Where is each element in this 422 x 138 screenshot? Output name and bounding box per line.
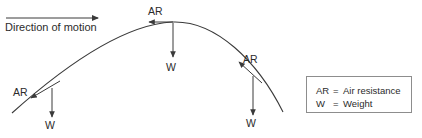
weight-label-apex: W (166, 62, 176, 73)
direction-of-motion-label: Direction of motion (5, 22, 97, 33)
legend-meaning-ar: Air resistance (343, 85, 401, 96)
legend-eq-ar: = (333, 85, 343, 96)
weight-label-descending: W (246, 118, 256, 129)
air-resistance-label-apex: AR (148, 6, 163, 17)
legend-row-air-resistance: AR=Air resistance (316, 85, 401, 96)
projectile-forces-diagram: Direction of motion AR W AR W AR W AR=Ai… (0, 0, 422, 138)
weight-label-ascending: W (45, 120, 55, 131)
trajectory-curve (12, 22, 283, 113)
legend-eq-w: = (333, 98, 343, 109)
legend-box: AR=Air resistance W=Weight (306, 76, 412, 113)
legend-key-w: W (316, 98, 333, 109)
legend-key-ar: AR (316, 85, 333, 96)
legend-row-weight: W=Weight (316, 98, 372, 109)
air-resistance-label-ascending: AR (13, 87, 28, 98)
legend-meaning-w: Weight (343, 98, 372, 109)
air-resistance-vector-ascending (31, 81, 60, 98)
air-resistance-label-descending: AR (243, 54, 258, 65)
